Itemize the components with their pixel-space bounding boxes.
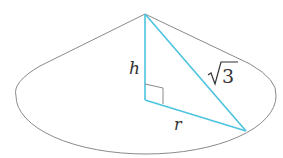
radius-label: r bbox=[174, 115, 183, 134]
slant-value: 3 bbox=[222, 65, 234, 87]
height-label: h bbox=[129, 58, 140, 78]
cone-base-ellipse bbox=[16, 96, 276, 154]
cone-diagram: h r 3 bbox=[0, 0, 283, 158]
radius-line bbox=[145, 100, 246, 131]
cone-right-side bbox=[145, 14, 276, 96]
slant-label: 3 bbox=[208, 62, 238, 87]
cone-left-side bbox=[16, 14, 146, 96]
